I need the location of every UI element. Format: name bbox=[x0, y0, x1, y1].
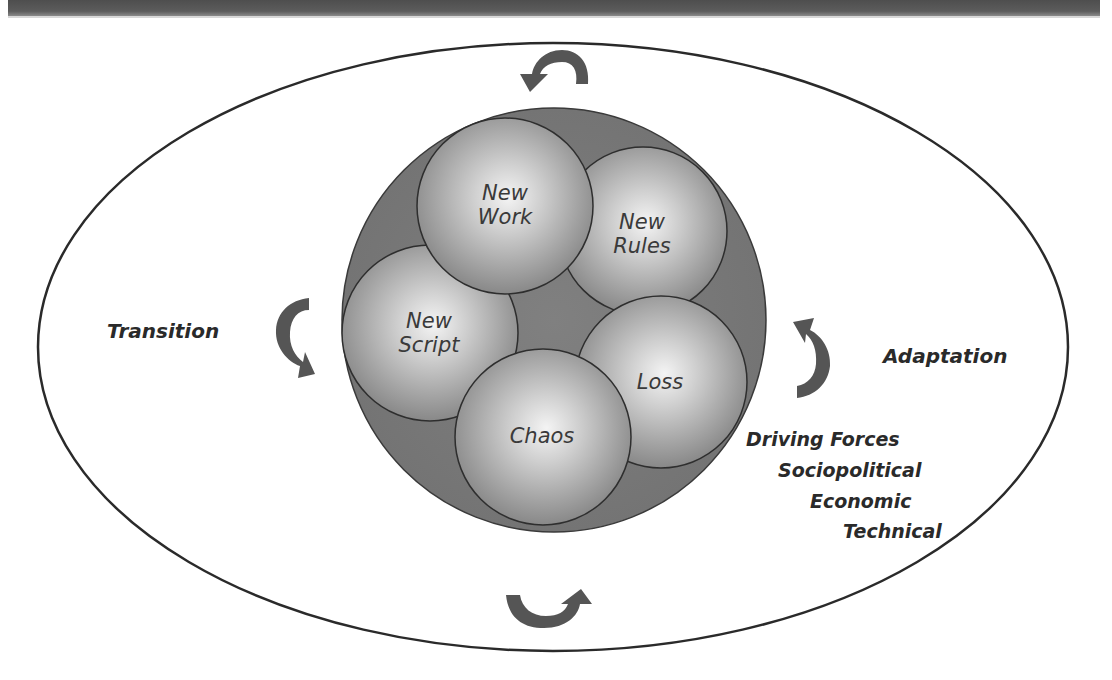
sphere-label-line: Loss bbox=[637, 371, 683, 395]
sphere-label-line: Chaos bbox=[510, 425, 575, 449]
sphere-label-line: New bbox=[613, 211, 671, 235]
driving-forces-title: Driving Forces bbox=[746, 430, 900, 449]
sphere-label-line: Script bbox=[399, 334, 460, 358]
sphere-label-chaos: Chaos bbox=[510, 425, 575, 449]
curved-arrow-up-icon bbox=[506, 589, 592, 628]
curved-arrow-counterclockwise-icon bbox=[520, 50, 588, 92]
driving-force-economic: Economic bbox=[810, 492, 911, 511]
sphere-label-new-work: New Work bbox=[478, 182, 532, 229]
sphere-label-line: New bbox=[478, 182, 532, 206]
sphere-label-line: New bbox=[399, 310, 460, 334]
sphere-label-new-rules: New Rules bbox=[613, 211, 671, 258]
sphere-label-line: Rules bbox=[613, 235, 671, 259]
driving-force-technical: Technical bbox=[843, 522, 942, 541]
sphere-label-line: Work bbox=[478, 206, 532, 230]
sphere-label-new-script: New Script bbox=[399, 310, 460, 357]
transition-label: Transition bbox=[107, 321, 219, 341]
driving-force-sociopolitical: Sociopolitical bbox=[778, 461, 921, 480]
sphere-label-loss: Loss bbox=[637, 371, 683, 395]
curved-arrow-down-icon bbox=[276, 298, 315, 378]
adaptation-label: Adaptation bbox=[883, 346, 1007, 366]
curved-arrow-up-icon bbox=[793, 318, 830, 398]
